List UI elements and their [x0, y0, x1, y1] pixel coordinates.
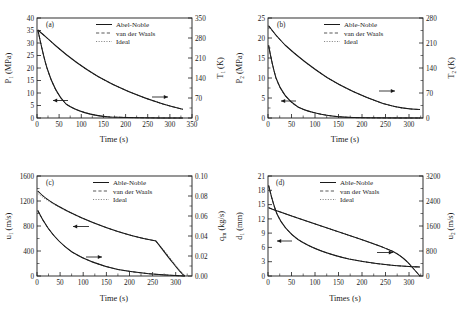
panel-c-y-ticks	[37, 176, 41, 276]
panel-a-y2label: T1 (K)	[216, 57, 226, 79]
x-tick: 200	[357, 121, 368, 129]
panel-c-xlabel: Time (s)	[100, 294, 129, 303]
x-tick: 200	[357, 279, 368, 287]
y2-tick: 0.10	[195, 173, 208, 181]
y-tick: 9	[261, 230, 265, 238]
y-tick: 6	[261, 244, 265, 252]
x-tick: 100	[76, 121, 87, 129]
svg-text:T1 (K): T1 (K)	[216, 57, 226, 79]
x-tick: 200	[120, 121, 131, 129]
panel-a-label: (a)	[46, 21, 55, 29]
panel-b-legend: Able-Noble van der Waals Ideal	[324, 21, 384, 46]
x-tick: 300	[404, 279, 415, 287]
panel-b-label: (b)	[277, 21, 286, 29]
panel-d-x-ticklabels: 0 50 100 150 200 250 300	[266, 279, 415, 287]
legend-ideal: Ideal	[113, 196, 127, 204]
y-tick: 30	[27, 40, 35, 48]
x-tick: 250	[142, 121, 153, 129]
panel-a-curves	[38, 30, 183, 118]
panel-c-y2label: qm (kg/s)	[217, 211, 227, 241]
x-tick: 200	[124, 279, 135, 287]
x-tick: 0	[35, 279, 39, 287]
x-tick: 250	[380, 279, 391, 287]
y-tick: 1200	[20, 198, 35, 206]
panel-c-right-arrow	[86, 255, 102, 259]
x-tick: 300	[165, 121, 176, 129]
y-tick: 15	[27, 77, 35, 85]
ylabel-unit: (MPa)	[235, 52, 244, 76]
ylabel-unit: (m/s)	[4, 213, 13, 233]
panel-b-y-ticklabels: 0 5 10 15 20 25	[258, 15, 266, 123]
svg-text:P2 (MPa): P2 (MPa)	[235, 52, 245, 83]
legend-van-der-waals: van der Waals	[113, 188, 153, 196]
x-tick: 300	[404, 121, 415, 129]
y-tick: 5	[30, 102, 34, 110]
svg-text:d1 (mm): d1 (mm)	[235, 212, 245, 240]
y2-tick: 2400	[426, 198, 441, 206]
x-tick: 150	[333, 279, 344, 287]
y2-tick: 280	[195, 35, 206, 43]
x-tick: 250	[380, 121, 391, 129]
y-tick: 15	[258, 55, 266, 63]
x-tick: 0	[266, 121, 270, 129]
panel-a-y2-ticklabels: 0 70 140 210 280 350	[195, 15, 206, 123]
y-tick: 20	[258, 35, 266, 43]
y2-tick: 0.06	[195, 213, 208, 221]
y-tick: 10	[27, 90, 35, 98]
x-tick: 100	[310, 279, 321, 287]
x-tick: 50	[288, 121, 296, 129]
panel-d-left-arrow	[277, 239, 292, 243]
panel-a-x-ticklabels: 0 50 100 150 200 250 300 350	[35, 121, 198, 129]
y2-tick: 0	[195, 115, 199, 123]
y2label-unit: (K)	[216, 57, 225, 71]
panel-a-right-arrow	[152, 95, 168, 99]
panel-c-curves	[38, 191, 186, 276]
x-tick: 150	[101, 279, 112, 287]
x-tick: 0	[266, 279, 270, 287]
panel-b-y2-ticks	[419, 18, 423, 118]
panel-b-y2-ticklabels: 0 70 140 210 280	[426, 15, 437, 123]
y-tick: 0	[30, 273, 34, 281]
panel-d-legend: Able-Noble van der Waals Ideal	[320, 179, 380, 204]
y2label-unit: (m/s)	[446, 213, 455, 233]
y2-tick: 350	[195, 15, 206, 23]
y2-tick: 210	[195, 55, 206, 63]
figure-container: 0 50 100 150 200 250 300 350 Time (s)	[0, 0, 461, 320]
x-tick: 150	[333, 121, 344, 129]
panel-d-y2-ticklabels: 0 800 1600 2400 3200	[426, 173, 441, 281]
panel-d: 0 50 100 150 200 250 300 Times (s) 0	[231, 158, 461, 320]
panel-b-svg: 0 50 100 150 200 250 300 Time (s)	[231, 0, 461, 158]
y-tick: 21	[258, 173, 266, 181]
panel-a-left-arrow	[53, 99, 68, 103]
y2-tick: 0	[426, 273, 430, 281]
legend-able-noble: Able-Noble	[340, 179, 373, 187]
y-tick: 25	[258, 15, 266, 23]
svg-text:P1 (MPa): P1 (MPa)	[4, 52, 14, 83]
panel-a-svg: 0 50 100 150 200 250 300 350 Time (s)	[0, 0, 231, 158]
panel-c-y2-ticklabels: 0.00 0.02 0.04 0.06 0.08 0.10	[195, 173, 208, 281]
y-tick: 800	[23, 223, 34, 231]
legend-able-noble: Able-Noble	[113, 179, 146, 187]
panel-d-y2label: u2 (m/s)	[446, 213, 456, 240]
y2-tick: 210	[426, 40, 437, 48]
svg-text:u1 (m/s): u1 (m/s)	[4, 213, 14, 240]
y-tick: 400	[23, 248, 34, 256]
panel-b-x-ticklabels: 0 50 100 150 200 250 300	[266, 121, 415, 129]
x-tick: 150	[98, 121, 109, 129]
legend-van-der-waals: van der Waals	[116, 30, 156, 38]
y-tick: 35	[27, 27, 35, 35]
legend-able-noble: Able-Noble	[344, 21, 377, 29]
y2-tick: 140	[195, 75, 206, 83]
panel-a-y-ticklabels: 0 5 10 15 20 25 30 35 40	[27, 15, 35, 123]
y-tick: 0	[261, 115, 265, 123]
panel-d-svg: 0 50 100 150 200 250 300 Times (s) 0	[231, 158, 461, 320]
x-tick: 0	[35, 121, 39, 129]
legend-ideal: Ideal	[116, 38, 130, 46]
panel-c: 0 50 100 150 200 250 300 Time (s)	[0, 158, 231, 320]
y-tick: 10	[258, 75, 266, 83]
y-tick: 0	[30, 115, 34, 123]
y2-tick: 140	[426, 65, 437, 73]
panel-b-y2label: T2 (K)	[447, 57, 457, 79]
panel-d-x-ticks	[268, 272, 409, 276]
y-tick: 0	[261, 273, 265, 281]
